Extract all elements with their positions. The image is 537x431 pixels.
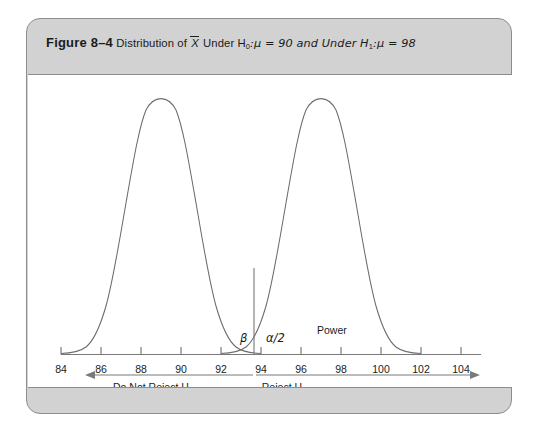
reject-subscript: 0	[302, 386, 306, 388]
reject-region-label: Reject H0	[262, 381, 306, 388]
tick-label-102: 102	[412, 363, 430, 375]
figure-number: Figure 8–4	[46, 35, 113, 50]
tick-label-88: 88	[135, 363, 147, 375]
do-not-reject-subscript: 0	[189, 386, 193, 388]
reject-arrow	[256, 371, 480, 379]
figure-caption: Figure 8–4 Distribution of X Under H0:μ …	[27, 19, 513, 74]
tick-label-92: 92	[215, 363, 227, 375]
figure-caption-text: Distribution of X Under H0:μ = 90 and Un…	[116, 37, 415, 49]
tick-label-84: 84	[55, 363, 67, 375]
tick-label-104: 104	[452, 363, 470, 375]
reject-text: Reject H	[262, 381, 302, 388]
tick-label-94: 94	[255, 363, 267, 375]
power-label: Power	[317, 324, 347, 336]
tick-label-100: 100	[372, 363, 390, 375]
x-bar-symbol: X	[190, 37, 200, 49]
caption-after-xbar: Under H	[200, 37, 246, 49]
tick-label-96: 96	[295, 363, 307, 375]
plot-area: β α/2 Power 84 86 88 90 92 94 96 98 100 …	[28, 74, 512, 388]
beta-label: β	[240, 331, 247, 345]
figure-panel: Figure 8–4 Distribution of X Under H0:μ …	[26, 18, 512, 414]
alpha-over-two-label: α/2	[266, 331, 285, 345]
curve-h0	[61, 99, 261, 354]
tick-label-86: 86	[95, 363, 107, 375]
do-not-reject-region-label: Do Not Reject H0	[113, 381, 193, 388]
x-axis-ticks	[61, 347, 461, 355]
tick-label-90: 90	[175, 363, 187, 375]
curve-h1	[221, 99, 421, 354]
caption-h0-rest: :μ = 90 and Under H	[250, 37, 369, 50]
do-not-reject-arrow	[85, 371, 253, 379]
caption-before-xbar: Distribution of	[116, 37, 190, 49]
caption-h1-rest: :μ = 98	[373, 37, 416, 50]
do-not-reject-text: Do Not Reject H	[113, 381, 189, 388]
tick-label-98: 98	[335, 363, 347, 375]
